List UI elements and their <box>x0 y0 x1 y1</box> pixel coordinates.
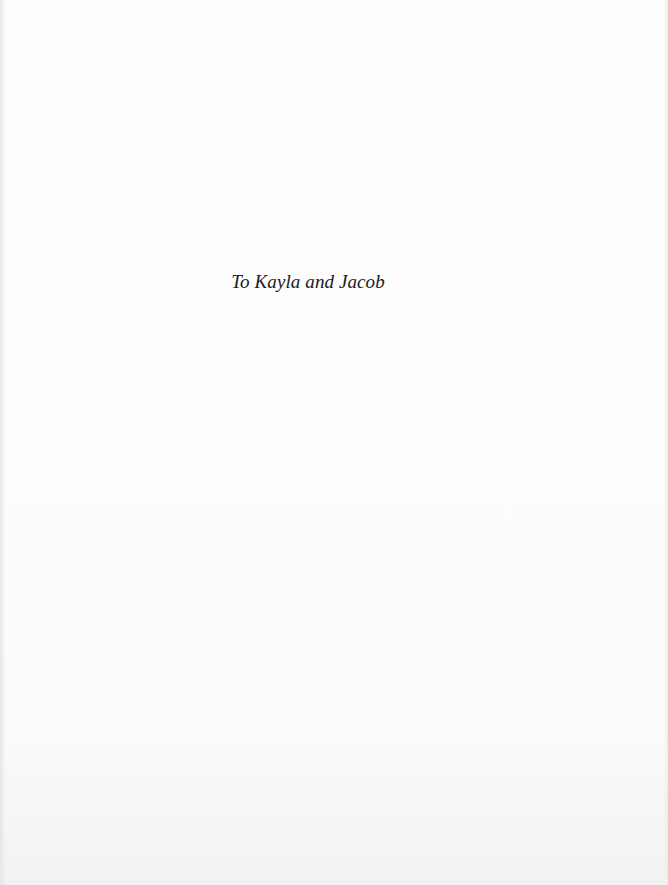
book-page: To Kayla and Jacob <box>0 0 668 885</box>
dedication-text: To Kayla and Jacob <box>0 271 616 293</box>
